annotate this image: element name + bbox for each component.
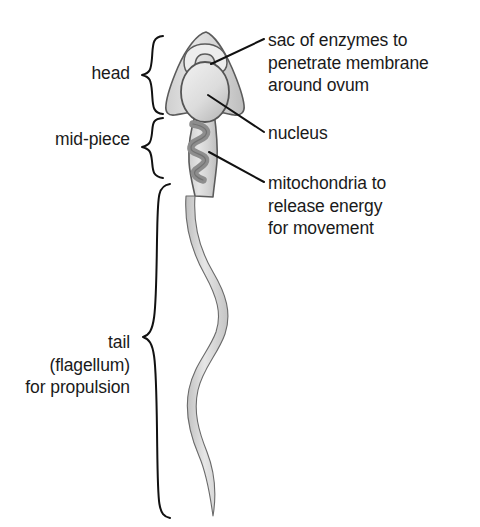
brace-midpiece [142, 118, 163, 178]
label-mitochondria: mitochondria to release energy for movem… [268, 172, 474, 240]
label-tail: tail (flagellum) for propulsion [0, 331, 130, 399]
nucleus-shape [181, 62, 229, 122]
brace-tail [143, 184, 170, 518]
tail-flagellum-shape [186, 196, 228, 516]
diagram-page: head mid-piece tail (flagellum) for prop… [0, 0, 480, 527]
label-nucleus: nucleus [268, 122, 474, 145]
label-acrosome: sac of enzymes to penetrate membrane aro… [268, 29, 474, 97]
label-midpiece: mid-piece [10, 128, 130, 151]
label-head: head [10, 62, 130, 85]
sperm-cell-group [166, 32, 244, 516]
brace-head [142, 36, 163, 114]
